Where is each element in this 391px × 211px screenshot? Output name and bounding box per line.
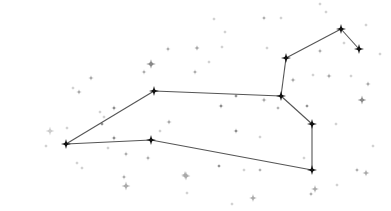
faint-star-icon — [276, 106, 280, 110]
constellation-line — [154, 91, 281, 96]
faint-star-icon — [305, 104, 309, 108]
constellation-line — [151, 140, 312, 170]
faint-star-icon — [362, 169, 369, 176]
faint-star-icon — [326, 73, 332, 79]
faint-star-icon — [158, 129, 162, 133]
faint-star-icon — [233, 128, 238, 133]
main-star-icon — [149, 86, 159, 96]
faint-star-icon — [378, 52, 382, 56]
faint-star-icon — [349, 74, 353, 78]
main-star-icon — [307, 165, 317, 175]
faint-star-icon — [324, 10, 328, 14]
constellation-line — [341, 29, 359, 49]
faint-star-icon — [290, 77, 296, 83]
faint-star-icon — [371, 144, 375, 148]
faint-star-icon — [242, 168, 246, 172]
faint-star-icon — [317, 48, 322, 53]
faint-star-icon — [249, 194, 257, 202]
faint-star-icon — [218, 103, 223, 108]
faint-star-icon — [265, 46, 269, 50]
faint-star-icon — [166, 119, 172, 125]
main-star-icon — [146, 135, 156, 145]
faint-star-icon — [46, 127, 55, 136]
faint-star-icon — [80, 166, 84, 170]
faint-star-icon — [309, 192, 314, 197]
faint-star-icon — [262, 16, 267, 21]
constellation-line — [281, 58, 286, 96]
faint-star-icon — [335, 183, 339, 187]
faint-star-icon — [220, 45, 224, 49]
faint-star-icon — [75, 161, 79, 165]
faint-star-icon — [44, 144, 48, 148]
faint-star-icon — [223, 30, 227, 34]
main-stars — [61, 24, 364, 175]
background-stars — [44, 2, 382, 206]
faint-star-icon — [123, 151, 128, 156]
faint-star-icon — [102, 115, 106, 119]
faint-star-icon — [65, 126, 69, 130]
faint-star-icon — [98, 110, 102, 114]
constellation-line — [66, 140, 151, 144]
star-chart — [0, 0, 391, 211]
faint-star-icon — [334, 122, 338, 126]
faint-star-icon — [145, 155, 150, 160]
faint-star-icon — [261, 97, 267, 103]
faint-star-icon — [358, 96, 367, 105]
faint-star-icon — [311, 73, 315, 77]
main-star-icon — [61, 139, 71, 149]
faint-star-icon — [192, 69, 197, 74]
faint-star-icon — [311, 185, 319, 193]
faint-star-icon — [111, 105, 116, 110]
faint-star-icon — [207, 60, 211, 64]
constellation-line — [281, 96, 312, 124]
faint-star-icon — [302, 156, 306, 160]
faint-star-icon — [212, 17, 216, 21]
faint-star-icon — [355, 168, 360, 173]
faint-star-icon — [76, 89, 82, 95]
faint-star-icon — [364, 23, 368, 27]
faint-star-icon — [122, 182, 131, 191]
faint-star-icon — [88, 75, 94, 81]
faint-star-icon — [258, 168, 262, 172]
faint-star-icon — [258, 135, 262, 139]
faint-star-icon — [121, 174, 126, 179]
faint-star-icon — [217, 164, 221, 168]
main-star-icon — [281, 53, 291, 63]
faint-star-icon — [318, 2, 322, 6]
constellation-line — [66, 91, 154, 144]
constellation-lines — [66, 29, 359, 170]
faint-star-icon — [106, 146, 110, 150]
faint-star-icon — [185, 191, 189, 195]
faint-star-icon — [141, 69, 146, 74]
faint-star-icon — [111, 135, 116, 140]
constellation-line — [286, 29, 341, 58]
faint-star-icon — [195, 46, 200, 51]
faint-star-icon — [342, 41, 346, 45]
faint-star-icon — [71, 86, 75, 90]
constellation-diagram — [0, 0, 391, 211]
faint-star-icon — [230, 202, 234, 206]
faint-star-icon — [279, 16, 283, 20]
faint-star-icon — [146, 59, 156, 69]
faint-star-icon — [182, 172, 191, 181]
faint-star-icon — [365, 81, 371, 87]
faint-star-icon — [165, 46, 170, 51]
